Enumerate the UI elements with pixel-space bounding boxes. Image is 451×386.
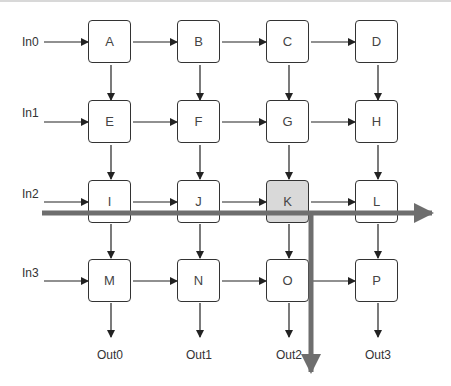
output-label-1: Out1 bbox=[186, 348, 212, 362]
highlight-path-layer bbox=[0, 0, 451, 386]
output-label-2: Out2 bbox=[276, 348, 302, 362]
output-label-0: Out0 bbox=[97, 348, 123, 362]
output-label-3: Out3 bbox=[365, 348, 391, 362]
